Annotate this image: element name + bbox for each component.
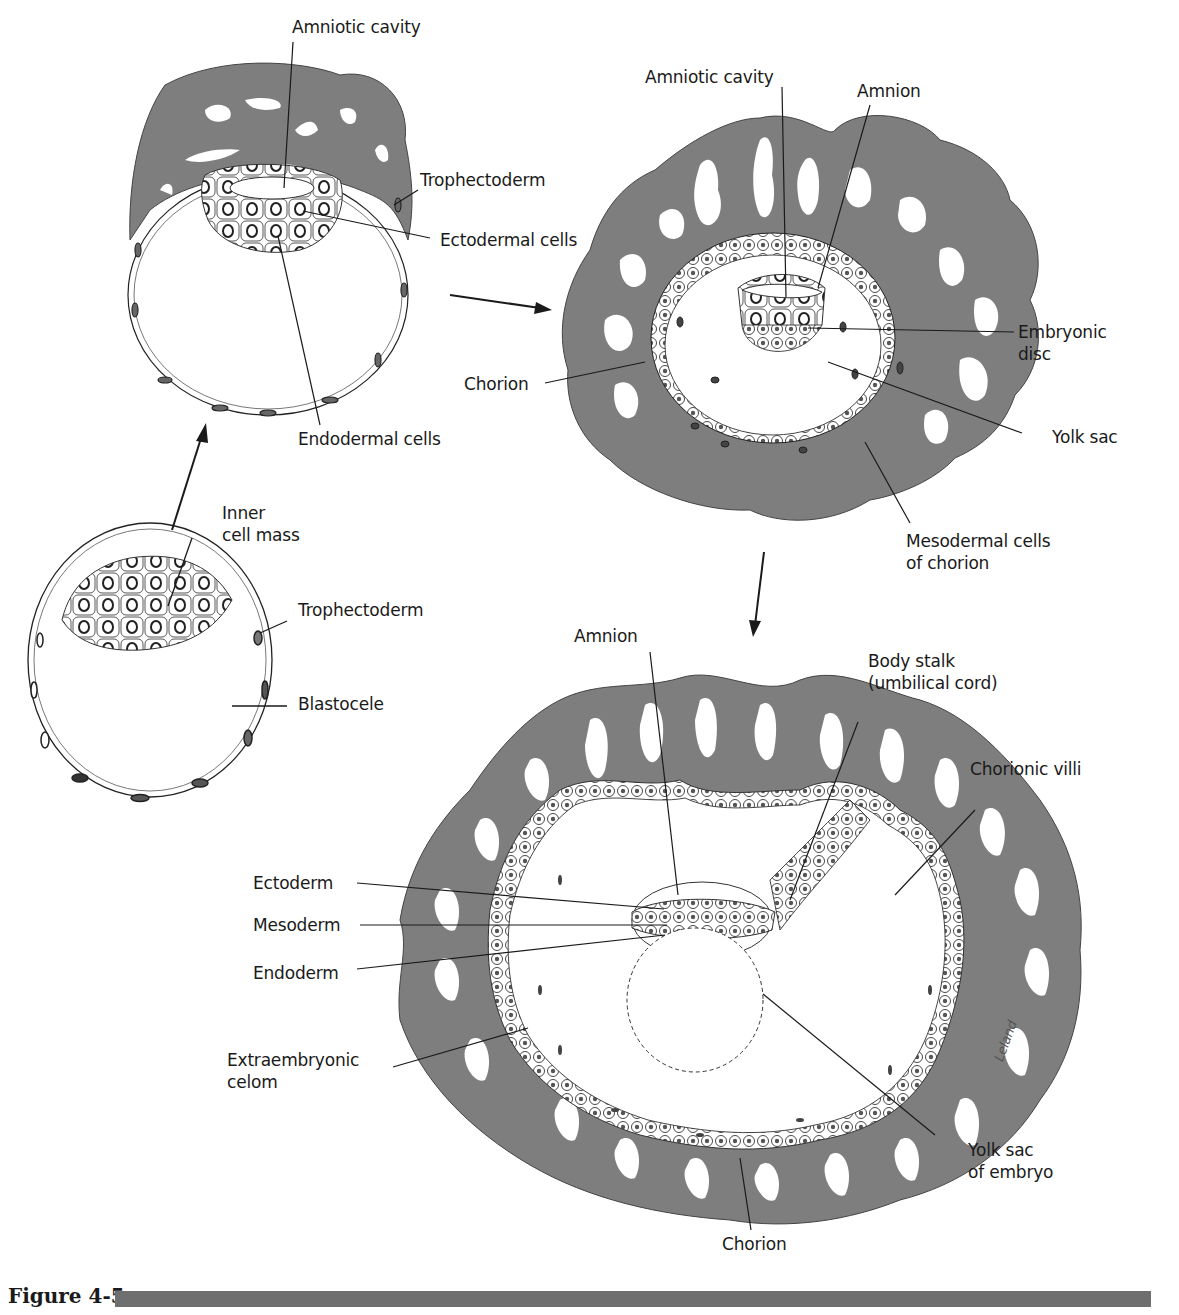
label-body-stalk: Body stalk (umbilical cord) — [868, 650, 997, 694]
label-chorion: Chorion — [722, 1233, 787, 1255]
label-ectoderm: Ectoderm — [253, 872, 333, 894]
label-blastocele: Blastocele — [298, 693, 384, 715]
arrow-down-icon — [749, 552, 764, 637]
label-endodermal-cells: Endodermal cells — [298, 428, 441, 450]
label-mesodermal-cells: Mesodermal cells of chorion — [906, 530, 1050, 574]
label-extraembryonic-celom: Extraembryonic celom — [227, 1049, 359, 1093]
blastocyst-drawing — [28, 523, 287, 802]
label-endoderm: Endoderm — [253, 962, 339, 984]
label-trophectoderm-early: Trophectoderm — [420, 169, 545, 191]
label-trophectoderm-blastocyst: Trophectoderm — [298, 599, 423, 621]
label-mesoderm: Mesoderm — [253, 914, 340, 936]
early-implantation-drawing — [128, 42, 430, 425]
figure-caption: Figure 4-5 — [8, 1284, 125, 1308]
figure-drawing — [0, 0, 1179, 1315]
caption-rule — [115, 1291, 1151, 1307]
label-embryonic-disc: Embryonic disc — [1018, 321, 1107, 365]
label-amniotic-cavity-early: Amniotic cavity — [292, 16, 421, 38]
label-amniotic-cavity: Amniotic cavity — [645, 66, 774, 88]
label-ectodermal-cells: Ectodermal cells — [440, 229, 577, 251]
label-yolk-sac: Yolk sac — [1052, 426, 1118, 448]
label-yolk-sac-embryo: Yolk sac of embryo — [968, 1139, 1053, 1183]
bilaminar-disc-drawing — [545, 87, 1038, 523]
label-amnion-disc: Amnion — [857, 80, 921, 102]
label-inner-cell-mass: Inner cell mass — [222, 502, 300, 546]
label-amnion: Amnion — [574, 625, 638, 647]
arrow-right-icon — [450, 295, 552, 314]
label-chorionic-villi: Chorionic villi — [970, 758, 1081, 780]
arrow-up-icon — [172, 423, 208, 530]
label-chorion-disc: Chorion — [464, 373, 529, 395]
